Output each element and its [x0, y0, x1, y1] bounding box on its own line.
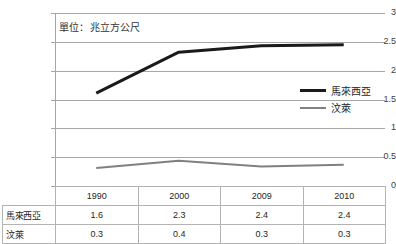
table-row: 馬來西亞1.62.32.42.4	[3, 206, 386, 225]
table-column-header: 2009	[221, 187, 304, 206]
table-cell: 0.3	[56, 225, 139, 244]
table-cell: 0.3	[303, 225, 386, 244]
legend-item-malaysia: 馬來西亞	[300, 82, 394, 99]
legend-item-brunei: 汶萊	[300, 99, 394, 116]
table-column-header: 1990	[56, 187, 139, 206]
data-table: 1990200020092010馬來西亞1.62.32.42.4汶萊0.30.4…	[2, 186, 386, 244]
legend-label-malaysia: 馬來西亞	[331, 83, 371, 98]
table-cell: 2.4	[221, 206, 304, 225]
table-row-label: 汶萊	[3, 225, 56, 244]
legend-label-brunei: 汶萊	[331, 100, 351, 115]
series-line-brunei	[96, 161, 344, 168]
table-cell: 1.6	[56, 206, 139, 225]
legend-swatch-malaysia	[300, 89, 326, 92]
legend-swatch-brunei	[300, 107, 326, 109]
chart-legend: 馬來西亞 汶萊	[300, 82, 394, 116]
chart-figure: 00.511.522.53 單位：兆立方公尺 馬來西亞 汶萊 199020002…	[0, 0, 396, 244]
table-row: 汶萊0.30.40.30.3	[3, 225, 386, 244]
table-cell: 2.4	[303, 206, 386, 225]
table-cell: 0.4	[138, 225, 221, 244]
table-header-row: 1990200020092010	[3, 187, 386, 206]
table-corner-cell	[3, 187, 56, 206]
table-cell: 2.3	[138, 206, 221, 225]
table-column-header: 2010	[303, 187, 386, 206]
table-cell: 0.3	[221, 225, 304, 244]
line-chart: 00.511.522.53 單位：兆立方公尺 馬來西亞 汶萊	[0, 0, 396, 190]
table-row-label: 馬來西亞	[3, 206, 56, 225]
table-column-header: 2000	[138, 187, 221, 206]
